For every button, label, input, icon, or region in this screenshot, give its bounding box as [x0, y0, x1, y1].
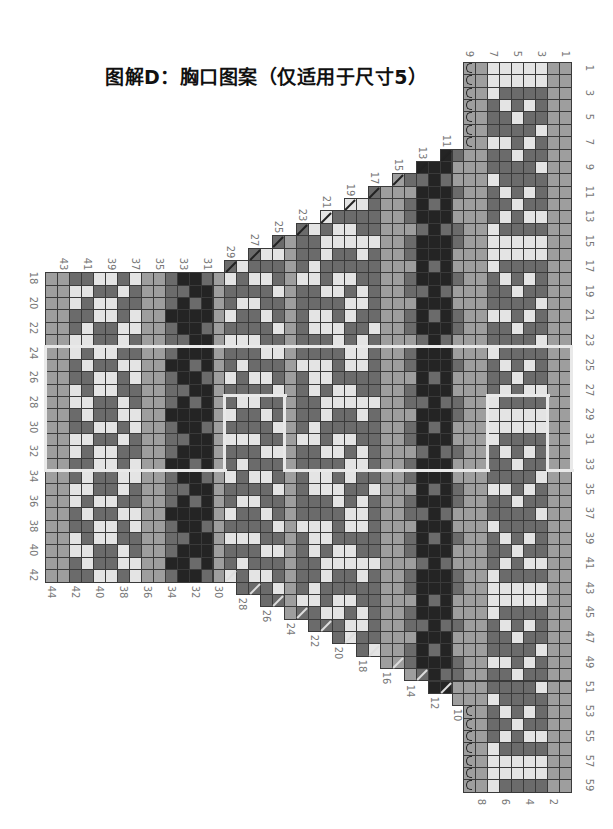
chart-cell	[356, 248, 369, 261]
chart-cell	[284, 322, 297, 335]
chart-cell	[487, 408, 500, 421]
chart-cell	[224, 285, 237, 298]
chart-cell	[440, 210, 453, 223]
chart-cell	[475, 495, 488, 508]
chart-cell	[440, 643, 453, 656]
chart-cell	[45, 408, 58, 421]
chart-cell	[416, 433, 429, 446]
column-number-label: 8	[475, 792, 487, 812]
chart-cell	[296, 507, 309, 520]
chart-cell	[511, 532, 524, 545]
chart-cell	[523, 347, 536, 360]
chart-cell	[189, 544, 202, 557]
chart-cell	[69, 483, 82, 496]
chart-cell	[284, 248, 297, 261]
chart-cell	[57, 371, 70, 384]
chart-cell	[296, 285, 309, 298]
chart-cell	[344, 619, 357, 632]
chart-cell	[308, 495, 321, 508]
chart-cell	[320, 606, 333, 619]
chart-cell	[368, 384, 381, 397]
chart-cell	[284, 297, 297, 310]
chart-cell	[189, 532, 202, 545]
chart-cell	[475, 235, 488, 248]
chart-cell	[165, 371, 178, 384]
chart-cell	[45, 347, 58, 360]
chart-cell	[428, 520, 441, 533]
chart-cell	[475, 619, 488, 632]
chart-cell	[547, 210, 560, 223]
chart-cell	[523, 742, 536, 755]
chart-cell	[487, 248, 500, 261]
chart-cell	[559, 62, 572, 75]
chart-cell	[129, 445, 142, 458]
chart-cell	[499, 445, 512, 458]
chart-cell	[499, 285, 512, 298]
chart-cell	[344, 223, 357, 236]
chart-cell	[404, 495, 417, 508]
chart-cell	[320, 495, 333, 508]
chart-cell	[535, 557, 548, 570]
chart-cell	[69, 495, 82, 508]
chart-cell	[153, 470, 166, 483]
row-number-label: 1	[583, 58, 595, 78]
chart-cell	[487, 285, 500, 298]
chart-cell	[93, 421, 106, 434]
chart-cell	[320, 396, 333, 409]
chart-cell	[117, 569, 130, 582]
chart-cell	[440, 668, 453, 681]
column-number-label: 24	[284, 619, 296, 639]
chart-cell	[356, 470, 369, 483]
chart-cell	[559, 742, 572, 755]
chart-cell	[201, 470, 214, 483]
chart-cell	[404, 594, 417, 607]
chart-cell	[248, 569, 261, 582]
chart-cell	[475, 149, 488, 162]
chart-cell	[452, 186, 465, 199]
chart-cell	[523, 718, 536, 731]
chart-cell	[416, 495, 429, 508]
column-number-label: 27	[248, 230, 260, 250]
chart-cell	[535, 235, 548, 248]
chart-cell	[559, 210, 572, 223]
chart-cell	[380, 421, 393, 434]
chart-cell	[141, 470, 154, 483]
chart-cell	[547, 681, 560, 694]
chart-cell	[296, 544, 309, 557]
chart-cell	[177, 347, 190, 360]
chart-cell	[523, 124, 536, 137]
chart-cell	[463, 668, 476, 681]
chart-cell	[475, 198, 488, 211]
chart-cell	[523, 483, 536, 496]
row-number-label: 55	[583, 726, 595, 746]
chart-cell	[272, 569, 285, 582]
chart-cell	[380, 433, 393, 446]
chart-cell	[475, 309, 488, 322]
chart-cell	[368, 619, 381, 632]
chart-cell	[452, 668, 465, 681]
column-number-label: 22	[308, 631, 320, 651]
chart-cell	[153, 421, 166, 434]
chart-cell	[475, 643, 488, 656]
chart-cell	[332, 260, 345, 273]
chart-cell	[416, 520, 429, 533]
chart-cell	[201, 359, 214, 372]
chart-cell	[368, 198, 381, 211]
chart-cell	[499, 631, 512, 644]
chart-cell	[404, 297, 417, 310]
chart-cell	[475, 99, 488, 112]
chart-cell	[272, 557, 285, 570]
chart-cell	[392, 359, 405, 372]
chart-cell	[440, 656, 453, 669]
chart-cell	[320, 223, 333, 236]
chart-cell	[487, 322, 500, 335]
chart-cell	[452, 582, 465, 595]
chart-cell	[105, 495, 118, 508]
chart-cell	[284, 470, 297, 483]
chart-cell	[499, 643, 512, 656]
chart-cell	[105, 285, 118, 298]
chart-cell	[165, 544, 178, 557]
chart-cell	[463, 384, 476, 397]
chart-cell	[523, 136, 536, 149]
chart-cell	[559, 260, 572, 273]
